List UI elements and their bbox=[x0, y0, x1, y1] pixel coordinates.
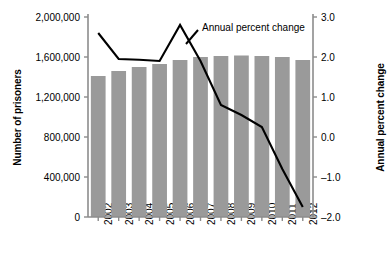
chart-container: Number of prisoners Annual percent chang… bbox=[0, 0, 392, 268]
bar-2005 bbox=[152, 64, 167, 217]
bar-2009 bbox=[234, 56, 249, 218]
bar-2008 bbox=[214, 56, 229, 217]
bar-2003 bbox=[111, 71, 126, 217]
bar-2006 bbox=[173, 60, 188, 217]
bar-2012 bbox=[295, 60, 310, 217]
bar-2002 bbox=[91, 76, 106, 217]
bar-series-number-of-prisoners bbox=[91, 56, 310, 218]
bar-2004 bbox=[132, 67, 147, 217]
bar-2007 bbox=[193, 57, 208, 217]
bar-2011 bbox=[275, 57, 290, 217]
plot-area bbox=[0, 0, 392, 268]
